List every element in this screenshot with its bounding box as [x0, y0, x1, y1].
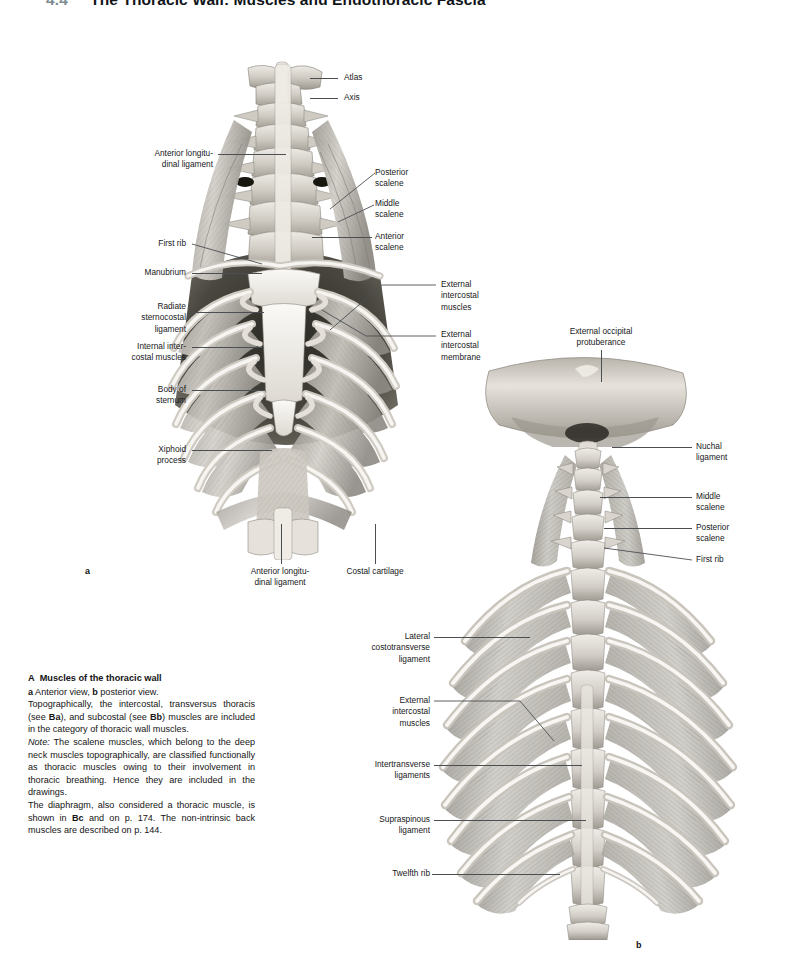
- leader-axis: [310, 98, 338, 99]
- leader-middle-scalene-b: [600, 497, 692, 498]
- label-manubrium: Manubrium: [118, 267, 186, 278]
- label-anterior-scalene: Anterior scalene: [375, 231, 404, 254]
- label-axis: Axis: [344, 92, 360, 103]
- caption-p2-text: The scalene muscles, which belong to the…: [28, 737, 255, 797]
- leader-costal-cartilage: [375, 524, 376, 564]
- leader-intertransverse-ligaments: [434, 765, 582, 766]
- caption-views-line: a Anterior view, b posterior view.: [28, 686, 255, 699]
- leader-middle-scalene: [338, 204, 376, 224]
- caption-paragraph-2: Note: The scalene muscles, which belong …: [28, 736, 255, 799]
- label-intertransverse-ligaments: Intertransverse ligaments: [330, 759, 430, 782]
- caption-letter: A: [28, 673, 35, 683]
- leader-anterior-longitudinal-ligament-bottom: [281, 524, 282, 564]
- leader-anterior-longitudinal-ligament: [218, 154, 286, 155]
- label-external-occipital-protuberance: External occipital protuberance: [527, 326, 675, 349]
- caption-view-b-text: posterior view.: [98, 687, 159, 697]
- label-twelfth-rib: Twelfth rib: [362, 868, 430, 879]
- leader-external-intercostal-muscles-b: [434, 701, 556, 743]
- leader-lateral-costotransverse-ligament: [434, 637, 530, 638]
- label-body-of-sternum: Body of sternum: [118, 384, 186, 407]
- caption-p1-mid: ), and subcostal (see: [60, 712, 150, 722]
- caption-p1-ref-bb: Bb: [150, 712, 162, 722]
- leader-manubrium: [192, 273, 262, 274]
- caption-paragraph-1: Topographically, the intercostal, transv…: [28, 698, 255, 736]
- caption-heading: AMuscles of the thoracic wall: [28, 672, 255, 685]
- leader-twelfth-rib: [432, 874, 560, 875]
- leader-body-of-sternum: [192, 390, 264, 391]
- label-external-intercostal-muscles-b: External intercostal muscles: [338, 695, 430, 729]
- caption-p1-ref-ba: Ba: [49, 712, 61, 722]
- leader-atlas: [310, 78, 338, 79]
- label-nuchal-ligament: Nuchal ligament: [696, 441, 727, 464]
- leader-first-rib-b: [604, 548, 694, 562]
- label-costal-cartilage: Costal cartilage: [334, 566, 416, 577]
- figure-a-panel-letter: a: [85, 566, 90, 576]
- leader-external-occipital-protuberance: [601, 350, 602, 382]
- leader-supraspinous-ligament: [434, 820, 586, 821]
- label-first-rib-b: First rib: [696, 554, 724, 565]
- label-anterior-longitudinal-ligament: Anterior longitu- dinal ligament: [105, 148, 213, 171]
- label-lateral-costotransverse-ligament: Lateral costotransverse ligament: [318, 631, 430, 665]
- label-xiphoid-process: Xiphoid process: [118, 444, 186, 467]
- label-anterior-longitudinal-ligament-bottom: Anterior longitu- dinal ligament: [228, 566, 332, 589]
- label-middle-scalene: Middle scalene: [375, 198, 404, 221]
- caption-view-a-text: Anterior view,: [33, 687, 92, 697]
- label-radiate-sternocostal-ligament: Radiate sternocostal ligament: [108, 301, 186, 335]
- label-external-intercostal-muscles: External intercostal muscles: [441, 279, 479, 313]
- leader-posterior-scalene-b: [604, 528, 692, 529]
- label-middle-scalene-b: Middle scalene: [696, 491, 725, 514]
- caption-note-label: Note:: [28, 737, 50, 747]
- leader-radiate-sternocostal-ligament: [192, 312, 264, 313]
- figure-b-panel-letter: b: [636, 940, 642, 950]
- label-atlas: Atlas: [344, 72, 362, 83]
- label-first-rib: First rib: [128, 238, 186, 249]
- caption-title: Muscles of the thoracic wall: [40, 673, 162, 683]
- label-posterior-scalene: Posterior scalene: [375, 167, 408, 190]
- label-internal-intercostal-muscles: Internal inter- costal muscles: [96, 341, 186, 364]
- leader-internal-intercostal-muscles: [192, 347, 264, 348]
- leader-xiphoid-process: [192, 450, 272, 451]
- page-title: The Thoracic Wall: Muscles and Endothora…: [90, 0, 485, 9]
- leader-anterior-scalene: [312, 237, 372, 238]
- leader-nuchal-ligament: [612, 447, 692, 448]
- label-supraspinous-ligament: Supraspinous ligament: [336, 814, 430, 837]
- leader-external-intercostal-membrane: [322, 310, 438, 338]
- caption-paragraph-3: The diaphragm, also considered a thoraci…: [28, 799, 255, 837]
- page-header: 4.4 The Thoracic Wall: Muscles and Endot…: [0, 0, 793, 13]
- label-posterior-scalene-b: Posterior scalene: [696, 522, 729, 545]
- figure-caption: AMuscles of the thoracic wall a Anterior…: [28, 672, 255, 837]
- leader-first-rib: [192, 244, 264, 266]
- header-section-number: 4.4: [46, 0, 68, 9]
- caption-p3-ref-bc: Bc: [72, 813, 84, 823]
